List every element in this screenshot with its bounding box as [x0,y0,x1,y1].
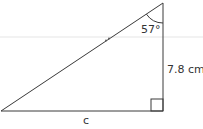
side-length-label: 7.8 cm [167,63,203,76]
base-label: c [83,114,89,127]
angle-arc [146,14,163,23]
triangle-diagram: 57° 7.8 cm c [0,0,203,129]
triangle-outline [1,3,163,111]
hypotenuse-mark [108,38,110,40]
angle-label: 57° [141,23,161,36]
right-angle-marker [151,99,163,111]
hypotenuse-mark [105,40,107,42]
